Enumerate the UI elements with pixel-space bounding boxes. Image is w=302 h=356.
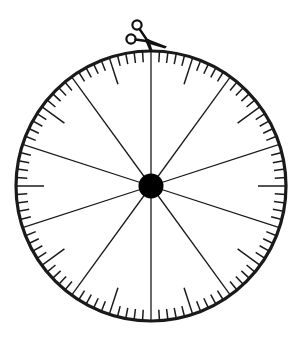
wheel-tick-short — [18, 161, 29, 163]
wheel-tick-short — [94, 298, 99, 308]
wheel-tick-long — [42, 107, 65, 123]
wheel-tick-short — [174, 308, 176, 319]
wheel-tick-long — [238, 107, 261, 123]
wheel-tick-short — [101, 301, 105, 311]
wheel-tick-long — [109, 288, 118, 315]
wheel-tick-short — [217, 72, 223, 81]
wheel-tick-short — [236, 276, 244, 284]
wheel-tick-short — [217, 291, 223, 300]
wheel-tick-short — [241, 94, 249, 102]
wheel-tick-short — [33, 246, 43, 251]
wheel-tick-short — [20, 152, 31, 155]
wheel-tick-long — [42, 249, 65, 265]
spinner-wheel-diagram — [0, 0, 302, 356]
wheel-tick-short — [230, 82, 237, 90]
wheel-tick-short — [47, 265, 55, 272]
wheel-tick-short — [247, 100, 255, 107]
wheel-tick-short — [37, 114, 46, 120]
wheel-tick-short — [260, 246, 270, 251]
wheel-tick-short — [167, 52, 168, 63]
wheel-tick-short — [47, 100, 55, 107]
wheel-spoke — [151, 144, 279, 186]
wheel-tick-long — [238, 249, 261, 265]
wheel-tick-short — [241, 271, 249, 279]
wheel-tick-short — [86, 295, 91, 305]
wheel-spoke — [72, 77, 151, 186]
wheel-tick-short — [256, 114, 265, 120]
scissors-icon — [126, 20, 167, 52]
wheel-tick-short — [59, 276, 67, 284]
wheel-tick-short — [117, 55, 120, 66]
wheel-tick-short — [86, 68, 91, 78]
wheel-tick-short — [37, 252, 46, 258]
wheel-tick-short — [59, 88, 67, 96]
wheel-tick-long — [109, 58, 118, 85]
wheel-tick-short — [16, 178, 27, 179]
wheel-tick-short — [260, 121, 270, 126]
wheel-tick-short — [274, 169, 285, 170]
wheel-tick-short — [143, 310, 144, 321]
wheel-tick-short — [236, 88, 244, 96]
wheel-tick-short — [143, 51, 144, 62]
wheel-tick-short — [273, 209, 284, 211]
wheel-tick-short — [174, 53, 176, 64]
wheel-tick-short — [79, 72, 85, 81]
wheel-tick-short — [101, 60, 105, 70]
wheel-tick-short — [16, 194, 27, 195]
wheel-tick-short — [275, 178, 286, 179]
wheel-tick-short — [230, 282, 237, 290]
wheel-tick-short — [17, 169, 28, 170]
wheel-tick-short — [29, 129, 39, 134]
wheel-tick-short — [65, 82, 72, 90]
wheel-tick-short — [266, 136, 276, 140]
wheel-tick-short — [204, 64, 209, 74]
wheel-tick-short — [126, 53, 128, 64]
wheel-tick-short — [271, 217, 282, 220]
wheel-tick-short — [79, 291, 85, 300]
wheel-tick-short — [25, 232, 35, 236]
wheel-tick-short — [159, 310, 160, 321]
wheel-spoke — [151, 186, 230, 295]
wheel-tick-short — [197, 60, 201, 70]
wheel-hub[interactable] — [139, 174, 164, 199]
wheel-tick-short — [29, 239, 39, 244]
wheel-tick-short — [53, 271, 61, 279]
wheel-tick-short — [17, 202, 28, 203]
wheel-tick-short — [18, 209, 29, 211]
wheel-tick-short — [134, 52, 135, 63]
wheel-tick-short — [182, 306, 185, 317]
wheel-tick-short — [134, 309, 135, 320]
wheel-tick-short — [263, 239, 273, 244]
wheel-tick-short — [263, 129, 273, 134]
wheel-tick-short — [167, 309, 168, 320]
wheel-spoke — [23, 186, 151, 228]
wheel-tick-short — [25, 136, 35, 140]
wheel-tick-short — [211, 68, 216, 78]
wheel-tick-short — [117, 306, 120, 317]
wheel-tick-short — [266, 232, 276, 236]
wheel-tick-short — [256, 252, 265, 258]
wheel-tick-short — [271, 152, 282, 155]
wheel-tick-short — [273, 161, 284, 163]
wheel-tick-short — [211, 295, 216, 305]
wheel-tick-short — [197, 301, 201, 311]
wheel-tick-long — [184, 58, 193, 85]
wheel-tick-short — [20, 217, 31, 220]
wheel-tick-short — [274, 202, 285, 203]
wheel-tick-short — [126, 308, 128, 319]
wheel-tick-short — [204, 298, 209, 308]
wheel-spoke — [151, 186, 279, 228]
wheel-tick-long — [184, 288, 193, 315]
wheel-spoke — [151, 77, 230, 186]
wheel-tick-short — [53, 94, 61, 102]
wheel-tick-short — [65, 282, 72, 290]
wheel-tick-short — [94, 64, 99, 74]
wheel-tick-short — [182, 55, 185, 66]
wheel-tick-short — [159, 51, 160, 62]
wheel-spoke — [23, 144, 151, 186]
wheel-spoke — [72, 186, 151, 295]
wheel-tick-short — [247, 265, 255, 272]
wheel-tick-short — [275, 194, 286, 195]
wheel-tick-short — [33, 121, 43, 126]
